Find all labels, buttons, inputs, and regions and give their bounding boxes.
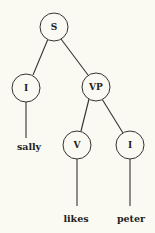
node-v: V — [63, 131, 91, 159]
node-s-label: S — [51, 22, 58, 32]
edge-s-i — [33, 39, 48, 75]
node-vp: VP — [82, 73, 110, 101]
node-s: S — [40, 13, 68, 41]
leaf-peter: peter — [117, 213, 146, 224]
edge-s-vp — [61, 39, 88, 75]
parse-tree: S I VP V I sally likes peter — [0, 0, 155, 233]
node-v-label: V — [73, 140, 82, 150]
node-i-object-label: I — [128, 140, 132, 150]
node-i-object: I — [116, 131, 144, 159]
edge-vp-v — [81, 99, 89, 131]
leaf-sally: sally — [17, 141, 42, 152]
edge-vp-i — [102, 99, 123, 133]
node-i-subject-label: I — [24, 83, 28, 93]
node-vp-label: VP — [88, 82, 103, 92]
node-i-subject: I — [12, 74, 40, 102]
leaf-likes: likes — [63, 213, 88, 224]
